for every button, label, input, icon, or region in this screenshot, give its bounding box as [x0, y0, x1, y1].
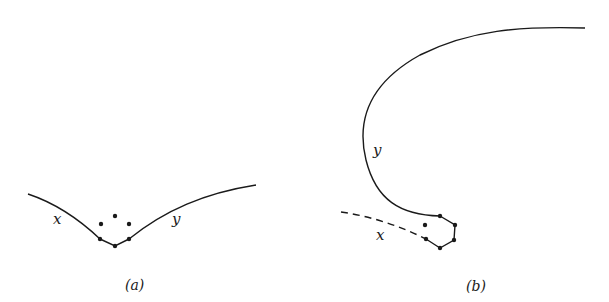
- caption-b: (b): [466, 278, 486, 294]
- label-x: x: [376, 226, 385, 244]
- curve-y: [129, 185, 256, 239]
- vertex-dot: [452, 238, 456, 242]
- label-y: y: [171, 210, 181, 228]
- free-dot: [99, 222, 103, 226]
- label-x: x: [53, 210, 62, 228]
- vertex-dot: [113, 244, 117, 248]
- vertex-dot: [127, 237, 131, 241]
- vertex-dot: [453, 223, 457, 227]
- curve-x: [28, 194, 100, 239]
- free-dot: [127, 222, 131, 226]
- vertex-dot: [98, 237, 102, 241]
- caption-a: (a): [125, 277, 144, 293]
- polygon: [426, 216, 455, 248]
- panel-a: x y (a): [28, 185, 256, 293]
- free-dot: [423, 223, 427, 227]
- figure: x y (a) y x (b): [0, 0, 609, 302]
- panel-b: y x (b): [341, 28, 585, 294]
- curve-y: [363, 28, 585, 216]
- vertex-dot: [438, 214, 442, 218]
- vertex-dot: [424, 237, 428, 241]
- free-dot: [113, 214, 117, 218]
- label-y: y: [372, 141, 382, 159]
- vertex-dot: [438, 246, 442, 250]
